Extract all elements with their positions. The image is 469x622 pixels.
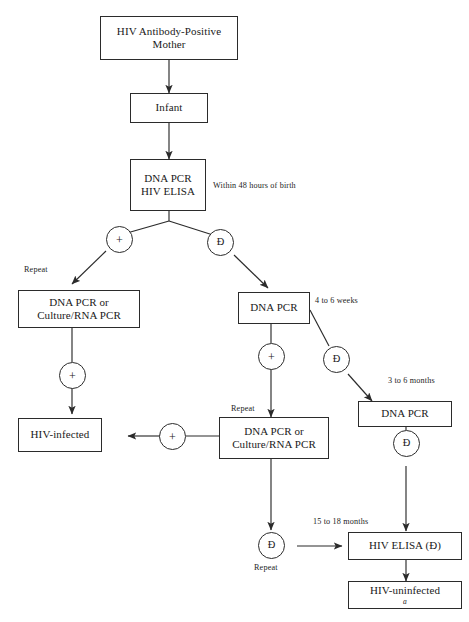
circle-label: + [116, 234, 123, 246]
node-hiv-infected: HIV-infected [18, 418, 102, 452]
flowchart-canvas: HIV Antibody-Positive Mother Infant DNA … [0, 0, 469, 622]
node-line-1: HIV ELISA (Ð) [369, 539, 441, 552]
node-left-repeat-dna-pcr-or-culture: DNA PCR or Culture/RNA PCR [18, 290, 140, 328]
node-line-1: DNA PCR [144, 172, 191, 185]
node-hiv-elisa-negative: HIV ELISA (Ð) [348, 532, 462, 560]
node-line-2: Culture/RNA PCR [37, 309, 121, 322]
node-dna-pcr-middle: DNA PCR [238, 292, 310, 324]
annotation-repeat-middle: Repeat [231, 404, 255, 413]
node-label-text: HIV-uninfected [370, 584, 440, 597]
annotation-within-48-hours: Within 48 hours of birth [213, 181, 296, 190]
annotation-15-to-18-months: 15 to 18 months [313, 517, 368, 526]
node-line-1: DNA PCR or [49, 296, 109, 309]
node-line-1: DNA PCR or [244, 425, 304, 438]
circle-label: Ð [403, 438, 411, 449]
node-line-2: HIV ELISA [141, 185, 195, 198]
circle-result-right-pcr-negative: Ð [393, 430, 420, 457]
circle-label: Ð [333, 354, 341, 365]
annotation-3-to-6-months: 3 to 6 months [388, 376, 435, 385]
footnote-marker: a [370, 597, 440, 606]
circle-result-repeat-positive-to-infected: + [159, 423, 186, 450]
annotation-repeat-left: Repeat [24, 265, 48, 274]
circle-result-birth-positive: + [106, 226, 133, 253]
circle-label: + [169, 431, 176, 443]
annotation-repeat-bottom: Repeat [254, 563, 278, 572]
node-line-1: HIV-uninfecteda [370, 584, 440, 607]
circle-label: + [69, 370, 76, 382]
node-line-1: Infant [156, 101, 183, 114]
annotation-4-to-6-weeks: 4 to 6 weeks [315, 296, 358, 305]
node-hiv-uninfected: HIV-uninfecteda [348, 581, 462, 609]
node-dna-pcr-right: DNA PCR [358, 401, 452, 427]
node-birth-test: DNA PCR HIV ELISA [130, 159, 206, 211]
circle-result-bottom-negative: Ð [258, 532, 285, 559]
circle-result-middle-pcr-positive: + [258, 343, 285, 370]
circle-label: Ð [268, 540, 276, 551]
circle-result-left-repeat-positive: + [59, 362, 86, 389]
circle-label: + [268, 351, 275, 363]
node-infant: Infant [130, 93, 208, 123]
node-hiv-antibody-positive-mother: HIV Antibody-Positive Mother [100, 16, 238, 60]
node-line-2: Mother [153, 38, 186, 51]
circle-result-birth-negative: Ð [207, 229, 234, 256]
circle-result-middle-pcr-negative: Ð [323, 346, 350, 373]
node-middle-repeat-dna-pcr-or-culture: DNA PCR or Culture/RNA PCR [219, 417, 329, 459]
node-line-1: DNA PCR [381, 407, 428, 420]
node-line-2: Culture/RNA PCR [232, 438, 316, 451]
circle-label: Ð [217, 237, 225, 248]
node-line-1: HIV Antibody-Positive [117, 25, 221, 38]
node-line-1: DNA PCR [250, 301, 297, 314]
node-line-1: HIV-infected [31, 428, 90, 441]
